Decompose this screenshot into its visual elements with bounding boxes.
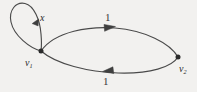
graph-canvas [0, 0, 197, 92]
vertex-v1-label: v1 [25, 58, 33, 68]
vertex-v1-base: v [25, 57, 29, 68]
top-edge-weight-text: 1 [105, 11, 111, 23]
graph-figure: x 1 1 v1 v2 [0, 0, 197, 92]
self-loop-weight-label: x [40, 13, 44, 23]
vertex-v2-label: v2 [179, 64, 187, 74]
self-loop-arrowhead [32, 19, 38, 26]
vertex-v1-dot [39, 49, 44, 54]
self-loop-edge [11, 3, 42, 51]
top-edge-weight-label: 1 [105, 12, 111, 23]
vertex-v2-dot [176, 55, 181, 60]
bottom-edge-weight-label: 1 [103, 76, 109, 87]
vertex-v2-subscript: 2 [184, 68, 187, 75]
top-arc-edge [41, 28, 178, 57]
vertex-v1-subscript: 1 [30, 62, 33, 69]
self-loop-weight-text: x [40, 12, 44, 23]
vertex-v2-base: v [179, 63, 183, 74]
bottom-edge-weight-text: 1 [103, 75, 109, 87]
